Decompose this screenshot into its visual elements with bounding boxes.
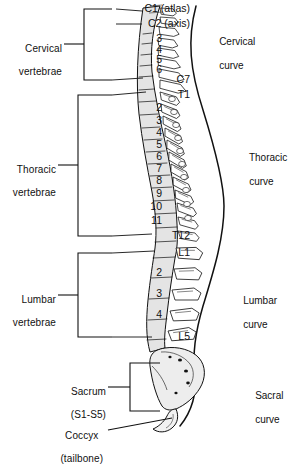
vertebra-label-t11: 11 — [40, 215, 162, 226]
sacrum-label-line1: Sacrum — [71, 386, 106, 397]
vertebra-label-t1: T1 — [40, 89, 190, 100]
curve-label-cervical: Cervical curve — [208, 24, 255, 84]
vertebra-label-t8: 8 — [40, 175, 162, 186]
vertebra-label-t7: 7 — [40, 163, 162, 174]
vertebra-label-c3: 3 — [40, 33, 162, 44]
thoracic-curve-line2: curve — [249, 176, 273, 187]
vertebra-label-t4: 4 — [40, 127, 162, 138]
lumbar-curve-line1: Lumbar — [243, 295, 277, 306]
vertebra-label-c2: C2 (axis) — [40, 18, 190, 29]
sacrum-art — [150, 347, 205, 410]
sacral-curve-line2: curve — [255, 414, 279, 425]
vertebra-label-t10: 10 — [40, 201, 162, 212]
curve-label-sacral: Sacral curve — [244, 378, 283, 438]
vertebra-label-l3: 3 — [40, 288, 162, 299]
thoracic-curve-line1: Thoracic — [249, 152, 287, 163]
vertebra-label-t5: 5 — [40, 139, 162, 150]
cervical-curve-line1: Cervical — [219, 36, 255, 47]
vertebra-label-t9: 9 — [40, 188, 162, 199]
coccyx-label-line2: (tailbone) — [60, 453, 103, 464]
curve-label-thoracic: Thoracic curve — [238, 140, 287, 200]
cervical-curve-line2: curve — [219, 60, 243, 71]
vertebra-label-t2: 2 — [40, 102, 162, 113]
vertebra-label-l4: 4 — [40, 309, 162, 320]
lumbar-curve-line2: curve — [243, 319, 267, 330]
sacral-curve-line1: Sacral — [255, 390, 283, 401]
vertebra-label-c1: C1 (atlas) — [40, 3, 190, 14]
vertebra-label-t6: 6 — [40, 151, 162, 162]
vertebra-label-t12: T12 — [40, 230, 190, 241]
vertebra-label-c7: C7 — [40, 74, 190, 85]
vertebra-label-l1: L1 — [40, 247, 190, 258]
coccyx-label-line1: Coccyx — [65, 430, 98, 441]
vertebra-label-l5: L5 — [40, 331, 190, 342]
region-label-coccyx: Coccyx (tailbone) — [44, 418, 108, 468]
vertebra-label-l2: 2 — [40, 267, 162, 278]
vertebra-label-t3: 3 — [40, 115, 162, 126]
curve-label-lumbar: Lumbar curve — [232, 283, 277, 343]
